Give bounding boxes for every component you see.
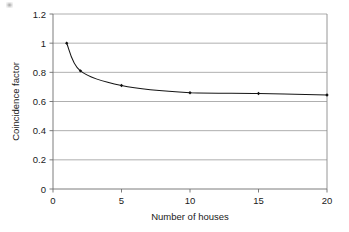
x-tick-label-20: 20 xyxy=(322,195,333,206)
y-tick-label-0: 0 xyxy=(41,184,46,195)
x-axis-ticks xyxy=(53,189,327,193)
y-tick-label-0.8: 0.8 xyxy=(33,67,46,78)
coincidence-factor-line-chart: 1.2 1 0.8 0.6 0.4 0.2 0 0 5 10 15 20 Num… xyxy=(0,0,349,232)
x-tick-label-5: 5 xyxy=(119,195,124,206)
x-tick-label-15: 15 xyxy=(253,195,264,206)
y-axis-ticks xyxy=(50,14,54,189)
x-axis-tick-labels: 0 5 10 15 20 xyxy=(50,195,332,206)
x-tick-label-10: 10 xyxy=(185,195,196,206)
y-axis-tick-labels: 1.2 1 0.8 0.6 0.4 0.2 0 xyxy=(33,9,46,195)
y-axis-title: Coincidence factor xyxy=(10,62,21,141)
y-tick-label-0.2: 0.2 xyxy=(33,154,46,165)
x-axis-title: Number of houses xyxy=(151,211,229,222)
x-tick-label-0: 0 xyxy=(50,195,55,206)
y-tick-label-1: 1 xyxy=(41,38,46,49)
y-tick-label-1.2: 1.2 xyxy=(33,9,46,20)
chart-figure: 1.2 1 0.8 0.6 0.4 0.2 0 0 5 10 15 20 Num… xyxy=(0,0,349,232)
y-tick-label-0.6: 0.6 xyxy=(33,96,46,107)
y-tick-label-0.4: 0.4 xyxy=(33,125,46,136)
